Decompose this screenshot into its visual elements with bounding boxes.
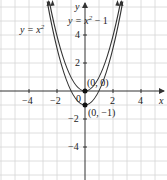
vertex-point-0-0 <box>83 89 88 94</box>
y-tick-label: −4 <box>68 141 79 152</box>
x-tick-label: 2 <box>110 95 115 106</box>
y-axis-label: y <box>74 1 80 12</box>
point-label-0-0: (0, 0) <box>87 77 109 89</box>
parabola-chart: −4 −2 2 4 4 2 −2 −4 0 x y (0, 0) (0, −1)… <box>0 0 167 180</box>
x-tick-label: −2 <box>50 95 61 106</box>
point-label-0-minus-1: (0, −1) <box>88 107 115 119</box>
vertex-point-0-minus-1 <box>83 103 88 108</box>
y-tick-label: −2 <box>68 113 79 124</box>
y-tick-label: 2 <box>75 57 80 68</box>
y-tick-label: 4 <box>75 29 80 40</box>
x-tick-label: −4 <box>22 95 33 106</box>
curve-label-x-squared: y = x2 <box>19 23 45 35</box>
x-tick-label: 4 <box>138 95 143 106</box>
curve-label-x-squared-minus-1: y = x2 − 1 <box>67 14 108 26</box>
x-axis-label: x <box>158 95 164 106</box>
